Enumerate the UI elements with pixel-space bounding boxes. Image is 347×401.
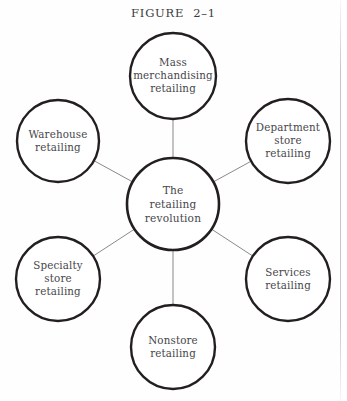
connector-lower-left [94, 230, 134, 256]
figure-container: FIGURE 2–1 Mass merchandising retailingD… [0, 0, 347, 401]
connector-upper-left [95, 161, 132, 181]
diagram-canvas [0, 0, 347, 401]
node-circle-specialty-store-retailing[interactable] [16, 237, 100, 321]
node-circle-retailing-revolution[interactable] [127, 158, 219, 250]
connector-lower-right [212, 230, 252, 256]
node-circle-services-retailing[interactable] [246, 237, 330, 321]
node-circle-department-store-retailing[interactable] [246, 99, 330, 183]
node-circle-mass-merchandising-retailing[interactable] [130, 33, 216, 119]
page-edge-line [340, 0, 341, 401]
connector-upper-right [214, 162, 250, 182]
node-circle-nonstore-retailing[interactable] [131, 305, 215, 389]
circle-layer [16, 33, 330, 389]
node-circle-warehouse-retailing[interactable] [17, 100, 99, 182]
